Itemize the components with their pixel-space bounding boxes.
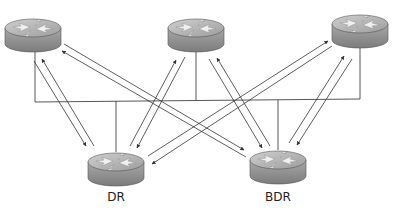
bdr-label: BDR (248, 190, 308, 204)
arrow-r1-dr (34, 61, 86, 146)
arrow-r2-dr (137, 57, 185, 148)
arrow-bdr-r2 (217, 58, 270, 146)
arrow-r2-bdr (209, 59, 262, 148)
router-dr (88, 153, 144, 186)
network-diagram (0, 0, 395, 210)
router-r2 (168, 19, 224, 52)
arrow-r1-bdr (64, 44, 244, 150)
adjacency-arrows (34, 41, 352, 164)
arrow-r3-bdr (297, 59, 352, 145)
arrow-bdr-r1 (62, 51, 246, 157)
arrow-r3-dr (152, 46, 332, 164)
router-r3 (332, 15, 388, 48)
router-bdr (250, 151, 306, 184)
dr-label: DR (86, 190, 146, 204)
arrow-dr-r2 (130, 60, 176, 146)
router-r1 (5, 19, 61, 52)
arrow-dr-r1 (42, 59, 94, 146)
